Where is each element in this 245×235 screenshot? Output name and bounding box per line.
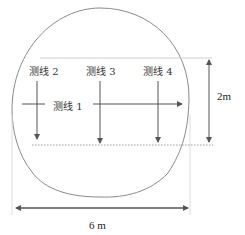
survey-line-1-label: 测线 1 [53,100,83,112]
tunnel-outline [12,8,189,197]
survey-line-4-label: 测线 4 [143,65,173,77]
survey-diagram: 测线 2 测线 3 测线 4 测线 1 2m 6 m [0,0,245,235]
survey-line-2-label: 测线 2 [29,65,59,77]
survey-line-3-label: 测线 3 [86,65,116,77]
width-dimension-label: 6 m [89,219,106,231]
height-dimension-label: 2m [217,90,232,102]
